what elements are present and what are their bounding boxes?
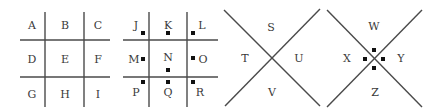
cell-label: D bbox=[28, 53, 37, 66]
region-label: V bbox=[267, 86, 277, 99]
marker-square bbox=[166, 80, 170, 84]
cell-label: R bbox=[196, 86, 205, 99]
region-label: X bbox=[343, 52, 351, 65]
marker-square bbox=[191, 56, 195, 60]
region-label: Z bbox=[371, 86, 379, 99]
cell-label: J bbox=[133, 19, 138, 32]
marker-square bbox=[141, 31, 145, 35]
cell-label: M bbox=[128, 53, 139, 66]
marker-square bbox=[141, 80, 145, 84]
cell-label: G bbox=[28, 88, 37, 101]
diagram-canvas: A B C D E F G H I J K L M N O P Q R bbox=[0, 0, 440, 111]
cell-label: A bbox=[27, 19, 37, 32]
cell-label: H bbox=[60, 88, 70, 101]
region-label: T bbox=[241, 52, 249, 65]
cell-label: I bbox=[96, 88, 100, 101]
marker-square bbox=[372, 48, 376, 52]
region-label: W bbox=[368, 20, 380, 33]
marker-square bbox=[166, 31, 170, 35]
marker-square bbox=[141, 57, 145, 61]
cell-label: K bbox=[164, 19, 173, 32]
marker-square bbox=[166, 68, 170, 72]
panel-grid-dotted: J K L M N O P Q R bbox=[123, 12, 218, 107]
marker-square bbox=[372, 66, 376, 70]
cell-label: B bbox=[61, 19, 69, 32]
cell-label: P bbox=[132, 86, 140, 99]
panel-cross-dotted: W X Y Z bbox=[327, 10, 422, 107]
cell-label: O bbox=[198, 53, 207, 66]
cell-label: C bbox=[94, 19, 102, 32]
region-label: U bbox=[294, 52, 303, 65]
region-label: S bbox=[267, 21, 275, 34]
diagram-svg: A B C D E F G H I J K L M N O P Q R bbox=[0, 0, 440, 111]
marker-square bbox=[191, 80, 195, 84]
region-label: Y bbox=[396, 52, 405, 65]
marker-square bbox=[191, 31, 195, 35]
cell-label: L bbox=[198, 19, 206, 32]
panel-cross-plain: S T U V bbox=[224, 9, 320, 106]
panel-grid-plain: A B C D E F G H I bbox=[20, 12, 110, 107]
cell-label: F bbox=[94, 53, 102, 66]
marker-square bbox=[381, 57, 385, 61]
cell-label: N bbox=[163, 51, 173, 64]
marker-square bbox=[363, 57, 367, 61]
cell-label: E bbox=[61, 53, 69, 66]
cell-label: Q bbox=[163, 86, 172, 99]
